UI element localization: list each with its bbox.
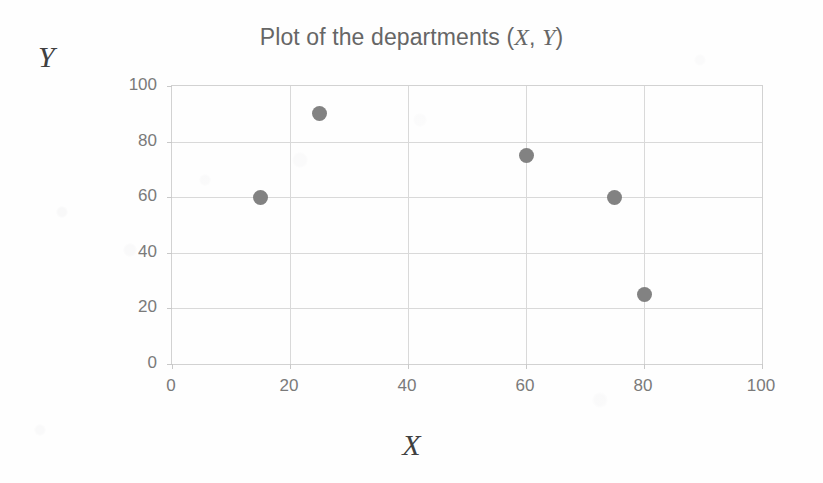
data-point-marker (519, 148, 534, 163)
x-axis-tick-label: 100 (747, 376, 775, 396)
y-axis-tick-labels: 020406080100 (95, 85, 157, 365)
y-axis-tick-mark (167, 86, 172, 87)
data-point-marker (253, 190, 268, 205)
chart-title-y-symbol: Y (542, 24, 555, 50)
y-axis-tick-label: 100 (129, 75, 157, 95)
x-axis-tick-label: 40 (398, 376, 417, 396)
y-axis-tick-label: 20 (138, 297, 157, 317)
y-axis-tick-mark (167, 253, 172, 254)
data-point-marker (637, 287, 652, 302)
chart-title-separator: , (529, 24, 542, 50)
x-axis-tick-mark (172, 364, 173, 369)
gridline-vertical (290, 86, 291, 364)
gridline-horizontal (172, 253, 762, 254)
chart-title-x-symbol: X (514, 24, 529, 50)
gridline-horizontal (172, 142, 762, 143)
x-axis-tick-label: 80 (634, 376, 653, 396)
data-point-marker (312, 106, 327, 121)
y-axis-title: Y (38, 40, 55, 74)
plot-area (171, 85, 763, 365)
gridline-vertical (408, 86, 409, 364)
chart-title-tail: ) (555, 24, 563, 50)
data-point-marker (607, 190, 622, 205)
gridline-vertical (644, 86, 645, 364)
y-axis-tick-mark (167, 197, 172, 198)
x-axis-tick-label: 20 (280, 376, 299, 396)
y-axis-tick-label: 0 (148, 353, 157, 373)
x-axis-tick-mark (762, 364, 763, 369)
y-axis-tick-label: 80 (138, 131, 157, 151)
x-axis-tick-label: 60 (516, 376, 535, 396)
scatter-chart: Plot of the departments (X, Y) Y X 02040… (0, 0, 823, 483)
y-axis-tick-label: 60 (138, 186, 157, 206)
chart-title: Plot of the departments (X, Y) (0, 24, 823, 51)
x-axis-tick-mark (644, 364, 645, 369)
y-axis-tick-mark (167, 308, 172, 309)
x-axis-tick-label: 0 (166, 376, 175, 396)
x-axis-tick-labels: 020406080100 (171, 376, 763, 402)
y-axis-tick-label: 40 (138, 242, 157, 262)
chart-title-lead: Plot of the departments ( (260, 24, 514, 50)
gridline-vertical (526, 86, 527, 364)
x-axis-tick-mark (408, 364, 409, 369)
x-axis-tick-mark (290, 364, 291, 369)
x-axis-title: X (0, 428, 823, 462)
gridline-horizontal (172, 308, 762, 309)
x-axis-tick-mark (526, 364, 527, 369)
y-axis-tick-mark (167, 142, 172, 143)
